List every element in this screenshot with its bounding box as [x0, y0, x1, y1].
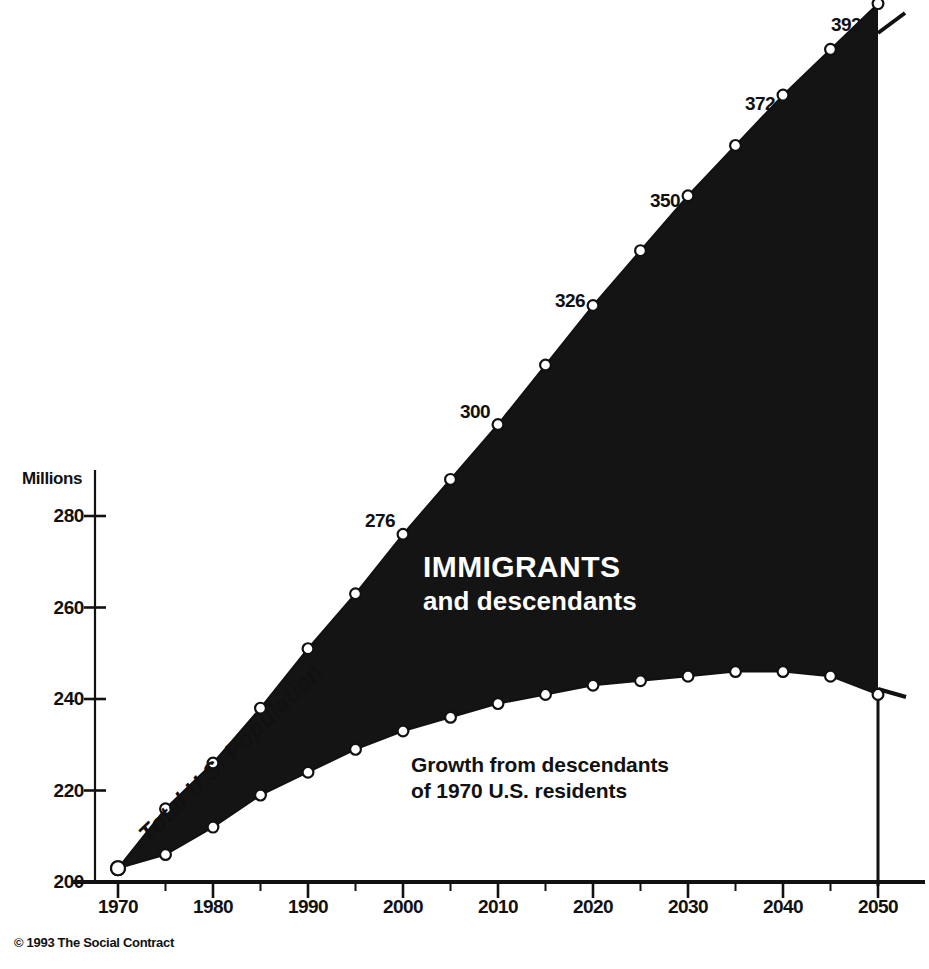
data-point-marker [825, 671, 836, 682]
annotation-growth-line2: of 1970 U.S. residents [411, 778, 627, 804]
data-point-marker [540, 689, 551, 700]
data-label-372: 372 [732, 93, 788, 115]
data-point-marker [825, 44, 836, 55]
data-point-marker [208, 822, 219, 833]
data-point-marker [350, 744, 361, 755]
x-tick-label-1980: 1980 [178, 896, 248, 918]
data-point-marker [778, 666, 789, 677]
data-point-marker [873, 689, 884, 700]
data-label-300: 300 [447, 401, 503, 423]
data-point-marker [683, 671, 694, 682]
x-tick-label-2020: 2020 [558, 896, 628, 918]
data-point-marker [730, 140, 741, 151]
annotation-growth-line1: Growth from descendants [411, 752, 669, 778]
data-point-marker [588, 680, 599, 691]
data-point-marker [730, 666, 741, 677]
data-label-392: 392 [818, 14, 874, 36]
y-tick-label-240: 240 [22, 688, 84, 710]
x-tick-label-2000: 2000 [368, 896, 438, 918]
y-axis-unit-label: Millions [22, 469, 82, 489]
data-label-350: 350 [637, 190, 693, 212]
copyright-credit: © 1993 The Social Contract [14, 935, 174, 950]
y-tick-label-280: 280 [22, 505, 84, 527]
y-tick-label-200: 200 [22, 871, 84, 893]
chart-root: Millions 280 260 240 220 200 1970 1980 1… [0, 0, 929, 969]
data-point-marker [111, 861, 125, 875]
x-tick-label-2040: 2040 [748, 896, 818, 918]
data-point-marker [160, 849, 171, 860]
y-tick-label-220: 220 [22, 780, 84, 802]
data-point-marker [445, 474, 456, 485]
data-point-marker [445, 712, 456, 723]
x-tick-label-1990: 1990 [273, 896, 343, 918]
x-tick-label-1970: 1970 [83, 896, 153, 918]
annotation-immigrants-subtitle: and descendants [423, 586, 637, 617]
x-tick-label-2010: 2010 [463, 896, 533, 918]
data-point-marker [540, 360, 551, 371]
data-point-marker [350, 588, 361, 599]
x-tick-label-2050: 2050 [843, 896, 913, 918]
data-point-marker [635, 675, 646, 686]
data-point-marker [635, 245, 646, 256]
data-point-marker [303, 643, 314, 654]
data-label-326: 326 [542, 290, 598, 312]
data-point-marker [398, 726, 409, 737]
x-tick-label-2030: 2030 [653, 896, 723, 918]
data-point-marker [255, 790, 266, 801]
data-point-marker [493, 698, 504, 709]
data-point-marker [303, 767, 314, 778]
annotation-immigrants-title: IMMIGRANTS [423, 550, 620, 584]
endcap-upper-tick [878, 13, 905, 33]
y-tick-label-260: 260 [22, 597, 84, 619]
data-point-marker [873, 0, 884, 9]
data-label-276: 276 [352, 510, 408, 532]
